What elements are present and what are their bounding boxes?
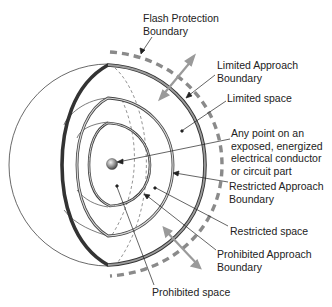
leader-limited-approach [188, 75, 215, 96]
label-energized-conductor: Any point on an exposed, energized elect… [231, 127, 323, 177]
restricted-ring-highlight [77, 98, 173, 236]
energized-conductor-ball [107, 159, 118, 170]
leader-prohibited-approach [146, 195, 216, 250]
label-prohibited-approach-boundary: Prohibited Approach Boundary [217, 248, 312, 273]
label-restricted-space: Restricted space [230, 225, 308, 238]
approach-boundaries-diagram: Flash Protection Boundary Limited Approa… [0, 0, 332, 307]
label-restricted-approach-boundary: Restricted Approach Boundary [229, 180, 324, 205]
double-arrow-bottom [164, 228, 200, 268]
label-limited-space: Limited space [227, 92, 292, 105]
label-prohibited-space: Prohibited space [152, 286, 230, 299]
label-flash-protection-boundary: Flash Protection Boundary [143, 12, 219, 37]
leader-prohibited-space [117, 187, 154, 285]
restricted-approach-ring [77, 98, 173, 236]
limited-cut-dashed [115, 68, 146, 262]
outer-sphere-outline [9, 64, 108, 266]
label-limited-approach-boundary: Limited Approach Boundary [217, 59, 298, 84]
limited-approach-ring [62, 65, 205, 265]
